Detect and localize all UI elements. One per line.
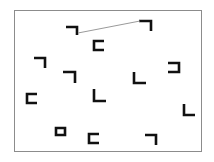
stimulus-canvas — [0, 0, 214, 162]
stimulus-svg — [0, 0, 214, 162]
stimulus-frame — [15, 11, 202, 152]
